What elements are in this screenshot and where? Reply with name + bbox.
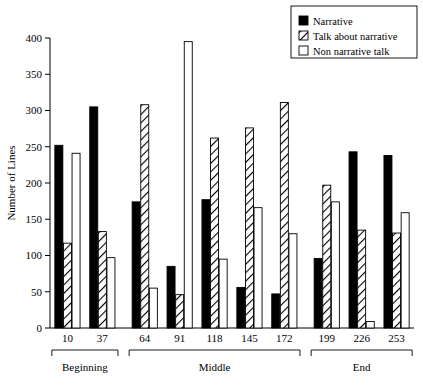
bar [90, 107, 98, 328]
y-tick-label: 200 [26, 177, 43, 189]
bar [245, 128, 253, 328]
category-label: 37 [97, 332, 109, 344]
group-bracket [129, 350, 300, 356]
bar [141, 105, 149, 328]
bar [393, 233, 401, 328]
bar [237, 287, 245, 328]
chart-canvas: 050100150200250300350400 103764911181451… [0, 0, 423, 386]
category-label: 118 [207, 332, 224, 344]
bar [280, 103, 288, 328]
category-label: 172 [276, 332, 293, 344]
bar [289, 234, 297, 328]
bar-chart: 050100150200250300350400 103764911181451… [0, 0, 423, 386]
bar [254, 208, 262, 328]
bar [132, 202, 140, 328]
bars-layer [55, 42, 409, 328]
legend-label: Narrative [313, 16, 353, 27]
bar [358, 230, 366, 328]
bar [323, 185, 331, 328]
bar [176, 295, 184, 328]
y-tick-label: 100 [26, 249, 43, 261]
bar [384, 155, 392, 328]
group-bracket-label: Beginning [62, 361, 108, 373]
bar [349, 152, 357, 328]
legend-label: Non narrative talk [313, 46, 390, 57]
category-label: 10 [62, 332, 74, 344]
bar [107, 258, 115, 328]
category-label: 253 [388, 332, 405, 344]
group-bracket-label: End [353, 361, 371, 373]
y-axis-title-label: Number of Lines [5, 145, 17, 220]
chart-legend: NarrativeTalk about narrativeNon narrati… [291, 6, 417, 58]
y-tick-label: 0 [37, 322, 43, 334]
legend-swatch [299, 16, 308, 25]
y-axis-title: Number of Lines [5, 145, 17, 220]
category-label: 199 [319, 332, 336, 344]
legend-swatch [299, 46, 308, 55]
y-tick-label: 300 [26, 104, 43, 116]
bar [366, 321, 374, 328]
bar [202, 200, 210, 328]
category-label: 91 [174, 332, 185, 344]
bar [401, 213, 409, 328]
group-bracket-label: Middle [199, 361, 231, 373]
y-tick-label: 150 [26, 213, 43, 225]
group-bracket [52, 350, 118, 356]
y-tick-label: 400 [26, 32, 43, 44]
bar [184, 42, 192, 328]
bar [272, 294, 280, 328]
bar [72, 153, 80, 328]
group-brackets: BeginningMiddleEnd [52, 350, 412, 373]
bar [219, 259, 227, 328]
category-label: 64 [139, 332, 151, 344]
category-label: 145 [241, 332, 258, 344]
legend-label: Talk about narrative [313, 31, 398, 42]
bar [331, 202, 339, 328]
bar [211, 138, 219, 328]
category-label: 226 [353, 332, 370, 344]
bar [167, 266, 175, 328]
bar [149, 288, 157, 328]
y-tick-label: 250 [26, 141, 43, 153]
legend-swatch [299, 31, 308, 40]
y-tick-label: 50 [31, 286, 43, 298]
bar [55, 145, 63, 328]
bar [63, 243, 71, 328]
category-labels: 10376491118145172199226253 [62, 332, 405, 344]
group-bracket [311, 350, 412, 356]
bar [98, 232, 106, 328]
y-axis: 050100150200250300350400 [26, 32, 51, 334]
bar [314, 258, 322, 328]
y-tick-label: 350 [26, 68, 43, 80]
